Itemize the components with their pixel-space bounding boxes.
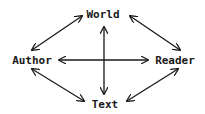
arrow-world-reader: [130, 16, 180, 50]
arrow-author-world: [32, 16, 82, 50]
node-text: Text: [92, 98, 119, 111]
node-world: World: [86, 8, 119, 21]
node-author: Author: [12, 54, 52, 67]
arrow-reader-text: [127, 69, 178, 101]
arrow-author-text: [32, 69, 84, 101]
node-reader: Reader: [155, 54, 195, 67]
world-author-reader-text-diagram: World Author Reader Text: [0, 0, 205, 114]
